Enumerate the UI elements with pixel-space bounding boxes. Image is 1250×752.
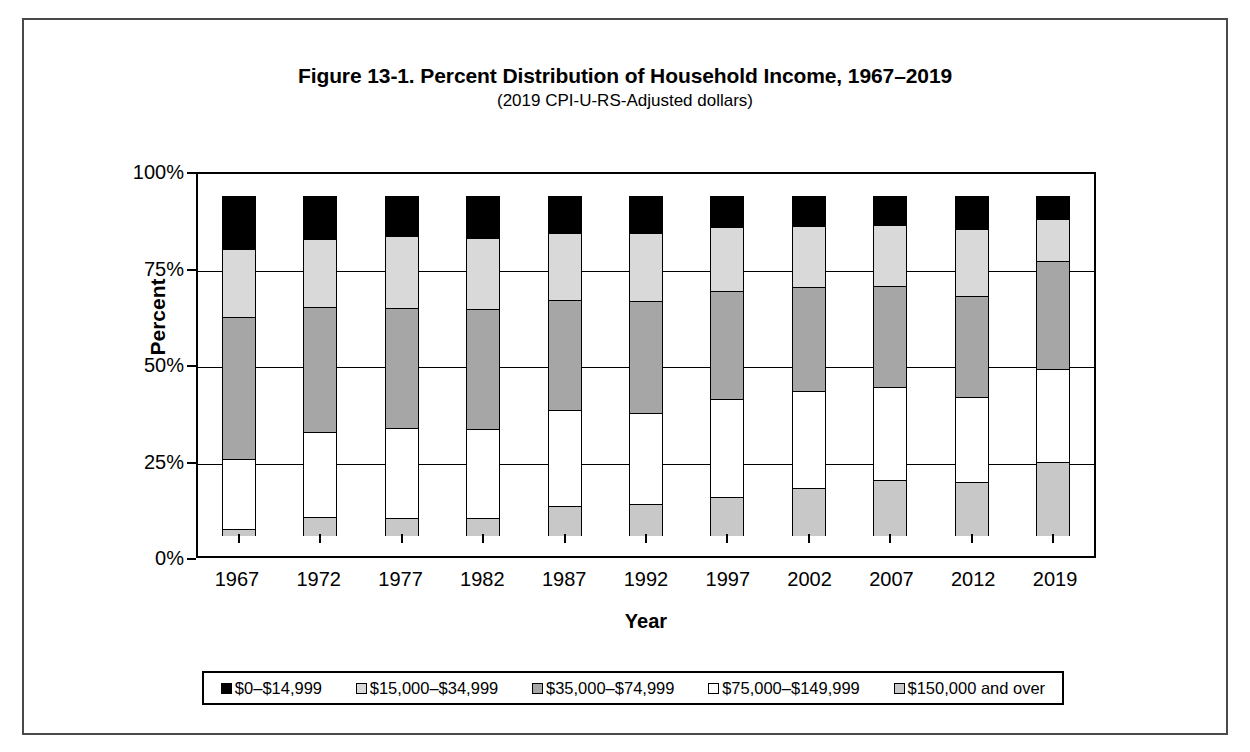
bar-segment [792,226,826,289]
x-axis-tick-labels: 1967197219771982198719921997200220072012… [196,568,1096,591]
bar-group [442,196,523,534]
bar-segment [222,249,256,319]
bar-segment [548,506,582,536]
y-axis-tick-label: 25% [64,450,184,473]
bar-segment [466,518,500,536]
x-axis-tick-mark [645,534,647,543]
bar-segment [548,300,582,412]
bar-segment [303,196,337,239]
stacked-bar[interactable] [629,196,663,534]
plot-area [196,172,1096,558]
legend-item-label: $75,000–$149,999 [722,679,860,698]
legend-item-label: $150,000 and over [908,679,1046,698]
bar-segment [548,233,582,301]
x-axis-tick-label: 1987 [523,568,605,591]
stacked-bar[interactable] [385,196,419,534]
bar-segment [873,225,907,288]
bar-segment [710,196,744,227]
stacked-bar[interactable] [792,196,826,534]
legend-swatch-icon [708,683,719,694]
legend-item[interactable]: $150,000 and over [894,679,1046,698]
bar-segment [873,387,907,482]
bar-segment [1036,196,1070,219]
x-axis-tick-mark [238,534,240,543]
legend-item[interactable]: $35,000–$74,999 [532,679,674,698]
stacked-bar[interactable] [873,196,907,534]
bar-segment [303,517,337,536]
bar-segment [303,432,337,518]
bar-segment [1036,462,1070,536]
legend-swatch-icon [356,683,367,694]
y-axis-tick-mark [187,462,196,464]
y-axis-tick-mark [187,172,196,174]
bar-segment [792,488,826,536]
chart-plot-wrapper: Percent 100%75%50%25%0% 1967197219771982… [196,150,1096,580]
stacked-bar[interactable] [1036,196,1070,534]
bar-group [605,196,686,534]
x-axis-tick-label: 2019 [1014,568,1096,591]
stacked-bar[interactable] [303,196,337,534]
y-axis-tick-mark [187,558,196,560]
legend-item[interactable]: $15,000–$34,999 [356,679,498,698]
bar-group [687,196,768,534]
legend-item-label: $0–$14,999 [235,679,322,698]
bar-group [361,196,442,534]
bar-segment [1036,219,1070,262]
stacked-bar[interactable] [955,196,989,534]
bar-segment [629,413,663,506]
bar-segment [629,196,663,233]
legend-swatch-icon [221,683,232,694]
x-axis-tick-mark [889,534,891,543]
bar-segment [792,391,826,489]
x-axis-tick-mark [971,534,973,543]
legend-item[interactable]: $0–$14,999 [221,679,322,698]
bar-segment [792,196,826,226]
bar-segment [873,196,907,225]
x-axis-tick-label: 1972 [278,568,360,591]
bar-segment [955,196,989,229]
bar-group [931,196,1012,534]
legend-item[interactable]: $75,000–$149,999 [708,679,860,698]
stacked-bar[interactable] [548,196,582,534]
stacked-bar[interactable] [222,196,256,534]
x-axis-tick-label: 1967 [196,568,278,591]
chart-title: Figure 13-1. Percent Distribution of Hou… [24,64,1226,88]
bar-segment [548,196,582,233]
legend-item-label: $15,000–$34,999 [370,679,498,698]
x-axis-tick-label: 1992 [605,568,687,591]
x-axis-tick-label: 2012 [932,568,1014,591]
x-axis-tick-label: 2007 [851,568,933,591]
bar-segment [710,399,744,498]
bar-group [279,196,360,534]
bar-segment [629,233,663,302]
y-axis-tick-mark [187,365,196,367]
x-axis-tick-mark [564,534,566,543]
x-axis-tick-mark [808,534,810,543]
x-axis-tick-mark [319,534,321,543]
y-axis-tick-label: 75% [64,257,184,280]
bar-group [768,196,849,534]
bar-segment [466,238,500,310]
title-block: Figure 13-1. Percent Distribution of Hou… [24,64,1226,111]
x-axis-tick-mark [1052,534,1054,543]
bar-segment [385,196,419,236]
bar-segment [466,196,500,238]
stacked-bar[interactable] [710,196,744,534]
bar-segment [466,309,500,431]
bar-group [850,196,931,534]
x-axis-tick-label: 2002 [769,568,851,591]
stacked-bar[interactable] [466,196,500,534]
bar-segment [710,497,744,536]
y-axis-tick-label: 100% [64,161,184,184]
bar-segment [222,459,256,530]
bar-group [524,196,605,534]
bar-group [198,196,279,534]
bar-series-container [198,196,1094,534]
bar-segment [955,229,989,297]
x-axis-title: Year [196,610,1096,633]
bar-segment [873,480,907,535]
x-axis-tick-mark [401,534,403,543]
legend-item-label: $35,000–$74,999 [546,679,674,698]
x-axis-tick-label: 1977 [360,568,442,591]
bar-segment [385,308,419,430]
